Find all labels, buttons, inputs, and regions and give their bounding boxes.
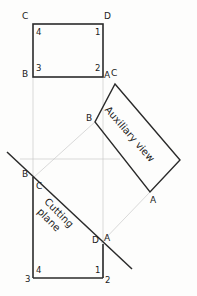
aux-view-label-B: B bbox=[86, 114, 92, 123]
technical-drawing-canvas: C D B A C 4 1 3 2 B A Auxiliary view B C… bbox=[0, 0, 197, 296]
top-view-rectangle bbox=[33, 24, 103, 77]
top-view-label-C-right: C bbox=[111, 69, 117, 78]
top-view-number-3: 3 bbox=[36, 64, 41, 73]
top-view-label-C: C bbox=[22, 12, 28, 21]
top-view-number-4: 4 bbox=[36, 28, 41, 37]
front-view-label-D: D bbox=[92, 236, 99, 245]
front-view-number-3: 3 bbox=[25, 275, 30, 284]
front-view-label-A: A bbox=[104, 234, 110, 243]
drawing-svg bbox=[0, 0, 197, 296]
projector-diagonal-b bbox=[33, 121, 96, 178]
top-view-label-B: B bbox=[22, 70, 28, 79]
front-view-label-C: C bbox=[36, 182, 42, 191]
front-view-number-4: 4 bbox=[36, 266, 41, 275]
front-view-number-1: 1 bbox=[95, 266, 100, 275]
top-view-number-2: 2 bbox=[95, 64, 100, 73]
aux-view-label-A: A bbox=[150, 196, 156, 205]
front-view-number-2: 2 bbox=[105, 276, 110, 285]
construction-lines bbox=[20, 77, 150, 278]
front-view-label-B: B bbox=[22, 170, 28, 179]
top-view-outline bbox=[33, 24, 103, 77]
top-view-label-D: D bbox=[104, 12, 111, 21]
top-view-label-A: A bbox=[104, 71, 110, 80]
top-view-number-1: 1 bbox=[95, 28, 100, 37]
